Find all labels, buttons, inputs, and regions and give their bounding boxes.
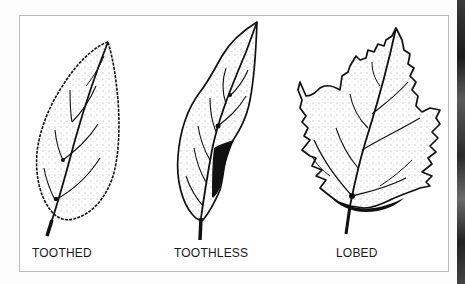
lobed-leaf-icon [298,28,440,234]
toothed-leaf-icon [37,42,119,236]
toothed-label: TOOTHED [32,246,92,260]
toothless-leaf-icon [178,22,257,240]
leaf-illustrations [0,0,465,284]
lobed-label: LOBED [336,246,378,260]
page: TOOTHED TOOTHLESS LOBED [0,0,465,284]
toothless-label: TOOTHLESS [174,246,248,260]
